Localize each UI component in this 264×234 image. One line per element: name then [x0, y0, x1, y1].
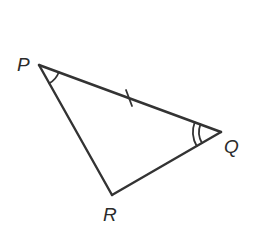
side-rp	[39, 65, 112, 195]
vertex-label-p: P	[17, 54, 30, 75]
vertex-label-r: R	[103, 204, 117, 225]
triangle-diagram: P Q R	[0, 0, 264, 234]
angle-arc-q-outer	[193, 122, 197, 146]
angle-arc-p	[49, 72, 59, 83]
angle-arc-q-inner	[199, 124, 202, 143]
vertex-label-q: Q	[224, 136, 239, 157]
side-qr	[112, 132, 221, 195]
